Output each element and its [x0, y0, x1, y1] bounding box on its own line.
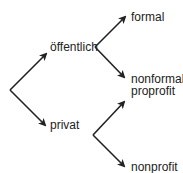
arrow-root-to-oeffentlich — [10, 54, 46, 90]
node-oeffentlich: öffentlich — [50, 41, 98, 53]
node-privat: privat — [50, 119, 79, 131]
node-formal: formal — [131, 11, 164, 23]
arrow-oeffentlich-to-nonformal — [95, 47, 124, 77]
arrow-oeffentlich-to-formal — [95, 17, 125, 47]
arrow-privat-to-nonprofit — [93, 135, 124, 166]
node-proprofit: proprofit — [131, 85, 175, 97]
arrow-privat-to-proprofit — [93, 102, 124, 135]
node-nonprofit: nonprofit — [131, 161, 178, 173]
arrow-root-to-privat — [10, 90, 45, 125]
